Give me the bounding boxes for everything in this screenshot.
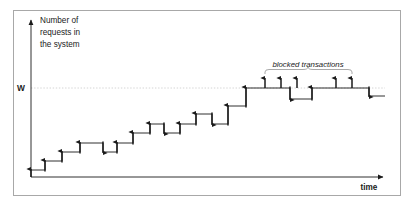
y-axis-label-line-2: requests in xyxy=(40,28,80,37)
step-function-path xyxy=(31,88,385,170)
y-axis-label-line-1: Number of xyxy=(40,16,79,25)
step-function-chart: Number of requests in the system W time … xyxy=(0,0,420,208)
step-transition-arrows xyxy=(31,87,369,178)
blocked-transactions-label: blocked transactions xyxy=(272,60,343,69)
y-axis-label-line-3: the system xyxy=(40,40,80,49)
figure-page: Number of requests in the system W time … xyxy=(0,0,420,208)
blocked-transaction-arrows xyxy=(265,78,352,88)
x-axis-label: time xyxy=(361,183,378,192)
threshold-label: W xyxy=(17,83,25,93)
